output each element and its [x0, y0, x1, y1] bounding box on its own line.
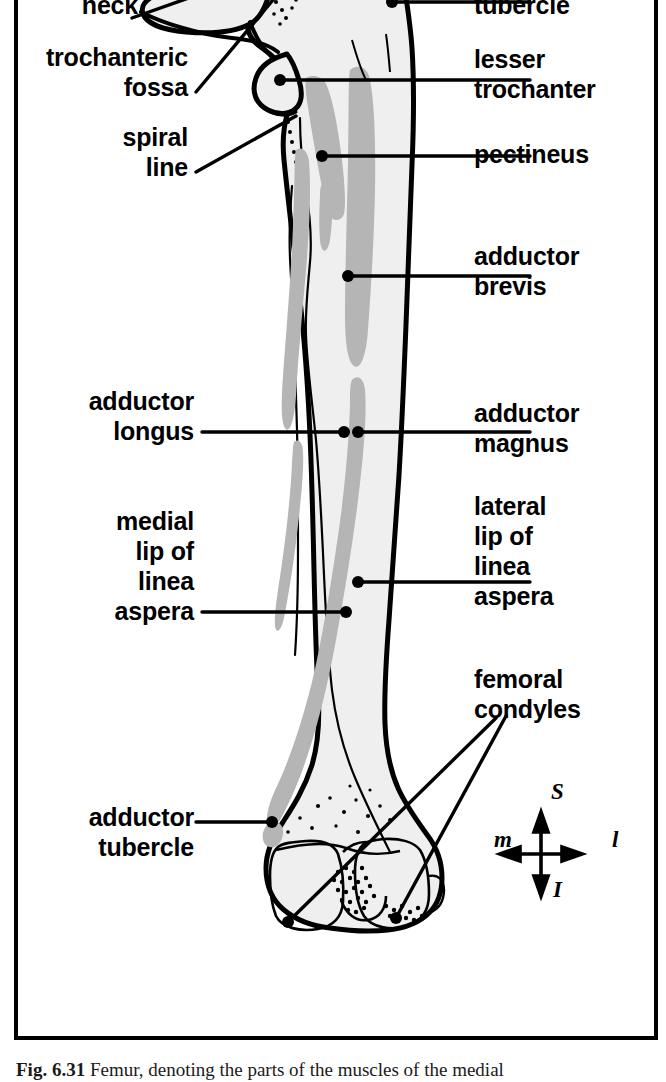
figure-caption-text: Femur, denoting the parts of the muscles… — [90, 1059, 504, 1080]
label-adductor-longus: adductor longus — [89, 386, 194, 446]
figure-caption: Fig. 6.31 Femur, denoting the parts of t… — [16, 1058, 656, 1082]
label-quadrate-tubercle: tubercle — [474, 0, 570, 20]
figure-frame: neck trochanteric fossa spiral line addu… — [14, 0, 658, 1040]
dot-adductor-longus — [338, 426, 350, 438]
dot-condyle-lateral — [390, 912, 402, 924]
label-spiral-line: spiral line — [123, 122, 189, 182]
dot-medial-lip — [340, 606, 352, 618]
label-femoral-condyles: femoral condyles — [474, 664, 581, 724]
dot-lateral-lip — [352, 576, 364, 588]
compass-label-inferior: I — [553, 878, 562, 901]
label-trochanteric-fossa: trochanteric fossa — [46, 42, 188, 102]
dot-condyle-medial — [282, 916, 294, 928]
dot-adductor-tubercle — [266, 816, 278, 828]
label-adductor-tubercle: adductor tubercle — [89, 802, 194, 862]
label-adductor-brevis: adductor brevis — [474, 241, 579, 301]
dot-adductor-brevis — [342, 270, 354, 282]
label-neck: neck — [82, 0, 138, 20]
figure-number: Fig. 6.31 — [16, 1059, 85, 1080]
dot-pectineus — [316, 150, 328, 162]
orientation-compass: S I m l — [494, 780, 624, 902]
label-lateral-lip-linea-aspera: lateral lip of linea aspera — [474, 491, 553, 611]
compass-label-medial: m — [494, 828, 512, 851]
compass-label-lateral: l — [612, 828, 618, 851]
label-medial-lip-linea-aspera: medial lip of linea aspera — [115, 506, 194, 626]
dot-lesser-trochanter — [274, 74, 286, 86]
label-lesser-trochanter: lesser trochanter — [474, 44, 596, 104]
dot-adductor-magnus — [352, 426, 364, 438]
label-adductor-magnus: adductor magnus — [474, 398, 579, 458]
compass-label-superior: S — [551, 780, 564, 803]
label-pectineus: pectineus — [474, 139, 589, 169]
